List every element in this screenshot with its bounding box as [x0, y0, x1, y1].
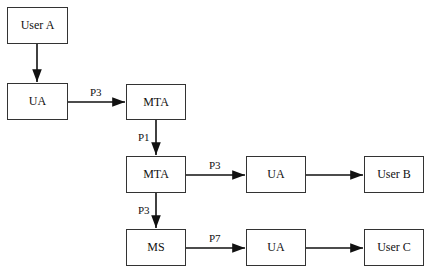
- node-label: MS: [147, 240, 164, 255]
- node-user-a: User A: [7, 7, 68, 44]
- node-label: User A: [21, 18, 55, 33]
- node-ua-1: UA: [7, 83, 68, 120]
- node-mta-2: MTA: [126, 156, 186, 193]
- node-label: UA: [267, 240, 284, 255]
- node-mta-1: MTA: [126, 84, 186, 120]
- edge-label-p3-ua-mta: P3: [90, 86, 102, 98]
- node-label: User C: [377, 240, 411, 255]
- node-label: UA: [267, 167, 284, 182]
- node-user-c: User C: [364, 229, 424, 266]
- node-label: UA: [29, 94, 46, 109]
- node-ua-3: UA: [246, 229, 306, 266]
- edge-label-p3-mta-ms: P3: [138, 204, 150, 216]
- edge-label-p7: P7: [209, 232, 221, 244]
- edge-label-p1: P1: [138, 131, 150, 143]
- node-user-b: User B: [364, 156, 424, 193]
- node-label: User B: [377, 167, 411, 182]
- node-label: MTA: [143, 95, 169, 110]
- node-ms: MS: [126, 229, 186, 266]
- edge-label-p3-mta-ua: P3: [209, 159, 221, 171]
- node-label: MTA: [143, 167, 169, 182]
- node-ua-2: UA: [246, 156, 306, 193]
